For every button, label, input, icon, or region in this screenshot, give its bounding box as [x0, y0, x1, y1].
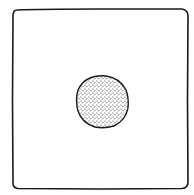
drawing-svg [0, 0, 194, 195]
stippled-circle [77, 76, 129, 128]
illustration [0, 0, 194, 195]
